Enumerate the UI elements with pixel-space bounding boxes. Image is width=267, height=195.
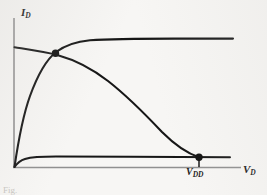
x-axis-label: VD — [243, 163, 256, 175]
vdd-annotation-label: VDD — [186, 166, 203, 177]
curve-load-line — [15, 47, 200, 157]
y-axis-label: ID — [21, 6, 31, 18]
operating-point-lower — [195, 154, 202, 161]
figure-container: ID VD VDD Fig. — [0, 0, 267, 195]
operating-point-upper — [52, 50, 59, 57]
curve-saturating-high — [15, 39, 234, 167]
vdd-label-main: V — [186, 166, 193, 177]
vdd-label-sub: DD — [193, 170, 203, 179]
x-axis-label-sub: D — [250, 168, 255, 177]
plot-canvas — [0, 0, 267, 195]
figure-caption-fragment: Fig. — [3, 185, 123, 195]
y-axis-label-sub: D — [25, 11, 30, 20]
